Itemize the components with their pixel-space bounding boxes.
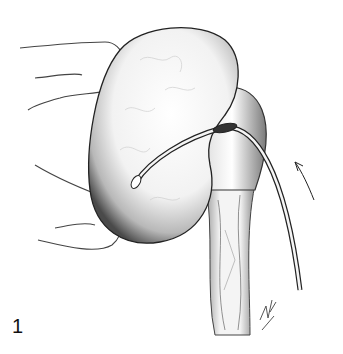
figure-number: 1 [12,315,23,338]
ureter [205,180,255,335]
direction-arrow-icon [295,162,314,200]
artist-signature [260,300,276,330]
surgical-illustration [0,0,343,354]
